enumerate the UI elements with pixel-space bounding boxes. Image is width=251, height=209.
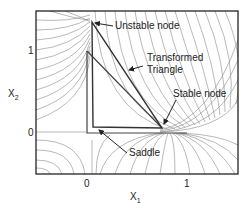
y-tick-0: 0 <box>28 128 34 138</box>
saddle-label: Saddle <box>129 148 160 158</box>
x-tick-1: 1 <box>184 179 190 189</box>
phase-plot-canvas <box>0 0 251 209</box>
y-tick-1: 1 <box>28 46 34 56</box>
y-axis-label: X2 <box>8 89 19 103</box>
transformed-triangle-label-line2: Triangle <box>147 65 183 75</box>
stable-node-label: Stable node <box>173 89 226 99</box>
x-tick-0: 0 <box>84 179 90 189</box>
unstable-node-label: Unstable node <box>115 21 180 31</box>
transformed-triangle <box>92 22 162 128</box>
x-axis-label: X1 <box>130 192 141 206</box>
phase-portrait-figure: Unstable node Transformed Triangle Stabl… <box>0 0 251 209</box>
transformed-triangle-label-line1: Transformed <box>147 53 203 63</box>
